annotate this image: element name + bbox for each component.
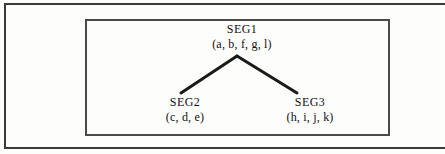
figure-canvas: SEG1 (a, b, f, g, l) SEG2 (c, d, e) SEG3… (0, 0, 445, 154)
outer-frame-left-edge (4, 3, 6, 149)
tree-node-seg2-name: SEG2 (137, 95, 233, 110)
tree-node-seg3-name: SEG3 (258, 95, 362, 110)
outer-frame-top-rule (4, 3, 445, 5)
tree-node-seg3-members: (h, i, j, k) (258, 110, 362, 125)
tree-node-seg2-members: (c, d, e) (137, 110, 233, 125)
outer-frame-bottom-rule (4, 147, 445, 149)
tree-node-seg2: SEG2 (c, d, e) (137, 95, 233, 126)
tree-node-seg3: SEG3 (h, i, j, k) (258, 95, 362, 126)
tree-node-seg1-name: SEG1 (187, 22, 297, 37)
tree-node-seg1-members: (a, b, f, g, l) (187, 37, 297, 52)
tree-node-seg1: SEG1 (a, b, f, g, l) (187, 22, 297, 53)
